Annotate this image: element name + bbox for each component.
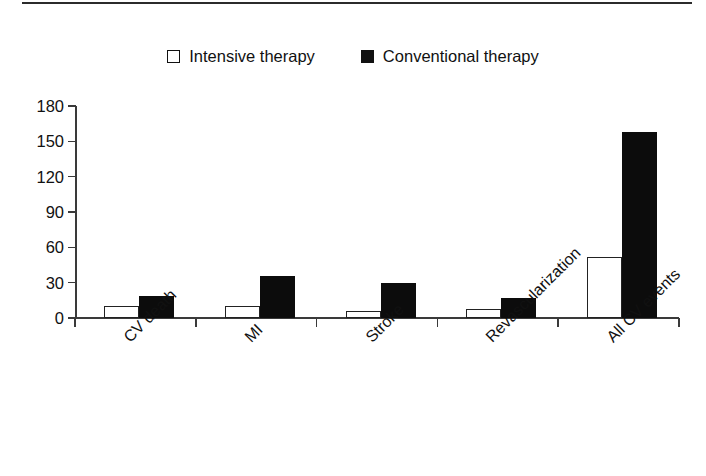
bars-layer xyxy=(0,0,706,318)
x-axis-tick xyxy=(74,318,76,327)
x-axis-label: MI xyxy=(242,321,266,345)
figure: Intensive therapy Conventional therapy 0… xyxy=(0,0,706,476)
bar-conventional xyxy=(260,276,295,318)
x-axis-tick xyxy=(437,318,439,327)
x-axis-tick xyxy=(678,318,680,327)
plot-area: 0306090120150180 CV deathMIStrokeRevascu… xyxy=(0,0,706,476)
bar-intensive xyxy=(225,306,260,318)
x-axis-tick xyxy=(557,318,559,327)
bar-intensive xyxy=(466,309,501,318)
bar-intensive xyxy=(587,257,622,318)
bar-intensive xyxy=(104,306,139,318)
x-axis-tick xyxy=(195,318,197,327)
bar-intensive xyxy=(346,311,381,318)
x-axis-tick xyxy=(316,318,318,327)
